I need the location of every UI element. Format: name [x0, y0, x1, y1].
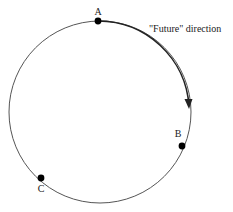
circular-time-diagram: A B C "Future" direction	[0, 0, 233, 212]
point-c-label: C	[38, 183, 45, 194]
point-c-dot	[38, 175, 45, 182]
point-a-dot	[95, 18, 102, 25]
point-b-label: B	[175, 128, 182, 139]
future-direction-label: "Future" direction	[149, 23, 221, 34]
point-a-label: A	[94, 6, 102, 17]
point-b-dot	[179, 143, 186, 150]
